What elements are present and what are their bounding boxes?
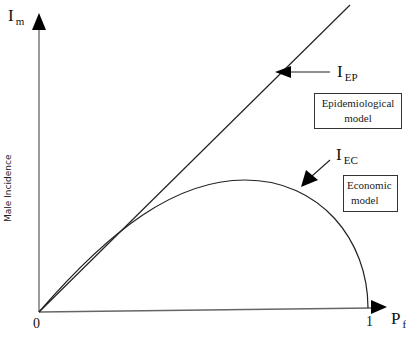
economic-curve	[39, 180, 368, 312]
x-axis-symbol: Pf	[391, 309, 406, 330]
x-max-tick-label: 1	[366, 314, 373, 330]
iec-pointer-line	[312, 160, 330, 176]
epidemiological-line	[39, 5, 350, 312]
economic-model-box: Economic model	[343, 175, 398, 212]
epidemiological-box-line2: model	[315, 111, 401, 126]
epidemiological-box-line1: Epidemiological	[315, 96, 401, 111]
economic-box-line2: model	[347, 193, 397, 208]
y-axis-symbol: Im	[8, 6, 24, 27]
iep-label: IEP	[337, 62, 358, 83]
y-axis-arrow-icon	[32, 13, 46, 30]
economic-box-line1: Economic	[347, 178, 397, 193]
y-axis-label: Male Incidence	[3, 155, 13, 222]
origin-tick-label: 0	[33, 316, 40, 332]
x-axis	[39, 308, 372, 312]
epidemiological-model-box: Epidemiological model	[314, 93, 402, 129]
x-axis-arrow-icon	[371, 300, 387, 314]
iec-label: IEC	[336, 145, 358, 166]
